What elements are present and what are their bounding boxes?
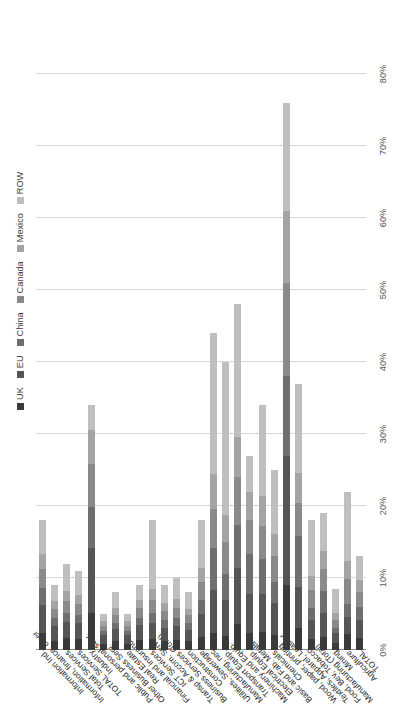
bar-row[interactable] [283,103,290,650]
bar-segment-mexico [259,496,266,526]
bar-segment-eu [320,613,327,637]
value-tick-label: 80% [378,65,388,83]
bar-row[interactable] [75,571,82,650]
legend-item-canada[interactable]: Canada [16,261,25,303]
bar-segment-row [112,592,119,608]
bar-row[interactable] [222,362,229,650]
bar-row[interactable] [136,585,143,650]
bar-segment-row [185,592,192,609]
legend-item-mexico[interactable]: Mexico [16,213,25,252]
bar-segment-canada [149,600,156,613]
bar-segment-uk [63,638,70,650]
value-tick-label: 50% [378,281,388,299]
bar-segment-row [246,456,253,492]
bar-segment-canada [63,601,70,613]
legend-swatch-icon [17,403,24,410]
bar-segment-mexico [39,554,46,570]
bar-row[interactable] [124,614,131,650]
legend-item-china[interactable]: China [16,312,25,346]
bar-segment-canada [124,626,131,631]
bar-segment-mexico [185,609,192,615]
bar-segment-china [332,628,339,634]
legend-item-uk[interactable]: UK [16,387,25,410]
bar-segment-uk [149,639,156,650]
bar-row[interactable] [210,333,217,650]
bar-segment-china [234,525,241,568]
legend-item-row[interactable]: ROW [16,172,25,204]
bar-row[interactable] [246,456,253,650]
bar-segment-canada [161,611,168,620]
bar-row[interactable] [185,592,192,650]
bar-segment-row [63,564,70,591]
legend-item-eu[interactable]: EU [16,355,25,378]
bar-row[interactable] [308,520,315,650]
bar-row[interactable] [356,556,363,650]
bar-segment-china [51,618,58,626]
bar-row[interactable] [112,592,119,650]
bar-segment-canada [88,464,95,507]
bar-segment-china [100,631,107,635]
bar-row[interactable] [332,589,339,650]
bar-segment-eu [173,626,180,640]
bar-segment-china [246,554,253,594]
plot-area: 0%10%20%30%40%50%60%70%80% [36,38,366,650]
bar-row[interactable] [39,520,46,650]
bar-segment-uk [332,643,339,650]
bar-segment-canada [51,609,58,618]
bar-segment-canada [320,569,327,591]
bar-segment-canada [210,509,217,548]
rotated-chart-frame: UKEUChinaCanadaMexicoROW TOTALAgricultur… [0,0,398,722]
bar-segment-mexico [112,608,119,614]
bar-segment-china [308,608,315,621]
bar-segment-china [39,588,46,605]
bar-row[interactable] [63,564,70,650]
bar-segment-canada [308,590,315,607]
bar-segment-uk [234,624,241,650]
bar-segment-canada [112,615,119,623]
bar-row[interactable] [198,520,205,650]
bar-row[interactable] [295,384,302,650]
bar-segment-canada [271,556,278,582]
bar-row[interactable] [234,304,241,650]
bar-segment-china [295,536,302,586]
bar-segment-uk [124,644,131,650]
bar-segment-mexico [308,576,315,590]
bar-row[interactable] [344,492,351,650]
bar-row[interactable] [161,585,168,650]
bar-row[interactable] [149,520,156,650]
bar-segment-eu [356,620,363,639]
value-tick-label: 0% [378,643,388,656]
bar-segment-eu [112,629,119,641]
bar-row[interactable] [88,405,95,650]
bar-segment-china [344,604,351,617]
bar-row[interactable] [271,470,278,650]
bar-segment-mexico [344,561,351,580]
category-axis: TOTALAgricultureMiningManufacturing (Tot… [36,650,366,722]
bar-segment-eu [344,617,351,634]
bar-segment-eu [185,630,192,642]
bar-segment-china [173,618,180,626]
bar-segment-china [88,507,95,547]
bar-segment-mexico [198,568,205,582]
value-tick-label: 40% [378,353,388,371]
bar-segment-eu [198,614,205,637]
bar-segment-canada [283,283,290,377]
bar-segment-uk [39,633,46,650]
bar-segment-uk [308,639,315,650]
bar-row[interactable] [320,513,327,650]
bar-segment-uk [222,636,229,650]
bar-row[interactable] [173,578,180,650]
bar-row[interactable] [100,614,107,650]
bar-segment-row [320,513,327,550]
bar-segment-uk [136,640,143,650]
value-tick-label: 20% [378,497,388,515]
stacked-bar-chart: UKEUChinaCanadaMexicoROW TOTALAgricultur… [0,0,398,722]
bar-row[interactable] [259,405,266,650]
bar-segment-china [63,613,70,622]
bar-segment-uk [75,639,82,650]
bar-segment-mexico [283,211,290,283]
bar-segment-row [161,585,168,604]
bar-row[interactable] [51,585,58,650]
bar-segment-eu [308,620,315,639]
bar-segment-uk [344,634,351,650]
